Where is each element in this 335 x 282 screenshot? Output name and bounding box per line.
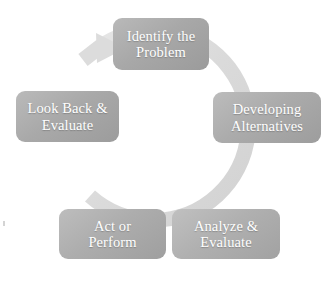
- node-label-line-1: Developing: [233, 101, 302, 117]
- node-identify-the-problem[interactable]: Identify theProblem: [113, 18, 209, 70]
- node-developing-alternatives[interactable]: DevelopingAlternatives: [213, 92, 321, 143]
- node-label-line-1: Look Back &: [27, 100, 107, 116]
- node-label: DevelopingAlternatives: [218, 101, 316, 133]
- node-act-or-perform[interactable]: Act orPerform: [59, 209, 166, 259]
- node-look-back-and-evaluate[interactable]: Look Back &Evaluate: [16, 91, 119, 142]
- scan-artifact-mark: [3, 221, 5, 226]
- node-label-line-1: Analyze &: [194, 218, 258, 234]
- node-label-line-2: Alternatives: [231, 118, 303, 134]
- process-cycle-diagram: Identify theProblem DevelopingAlternativ…: [0, 0, 335, 282]
- node-label-line-2: Perform: [88, 234, 136, 250]
- node-label: Analyze &Evaluate: [177, 218, 275, 250]
- node-label-line-2: Evaluate: [200, 234, 252, 250]
- node-label-line-2: Problem: [136, 44, 186, 60]
- node-label: Identify theProblem: [118, 28, 204, 60]
- node-analyze-and-evaluate[interactable]: Analyze &Evaluate: [172, 209, 280, 259]
- node-label-line-1: Identify the: [127, 28, 195, 44]
- node-label-line-1: Act or: [94, 218, 131, 234]
- node-label-line-2: Evaluate: [42, 117, 94, 133]
- node-label: Act orPerform: [64, 218, 161, 250]
- node-label: Look Back &Evaluate: [21, 100, 114, 132]
